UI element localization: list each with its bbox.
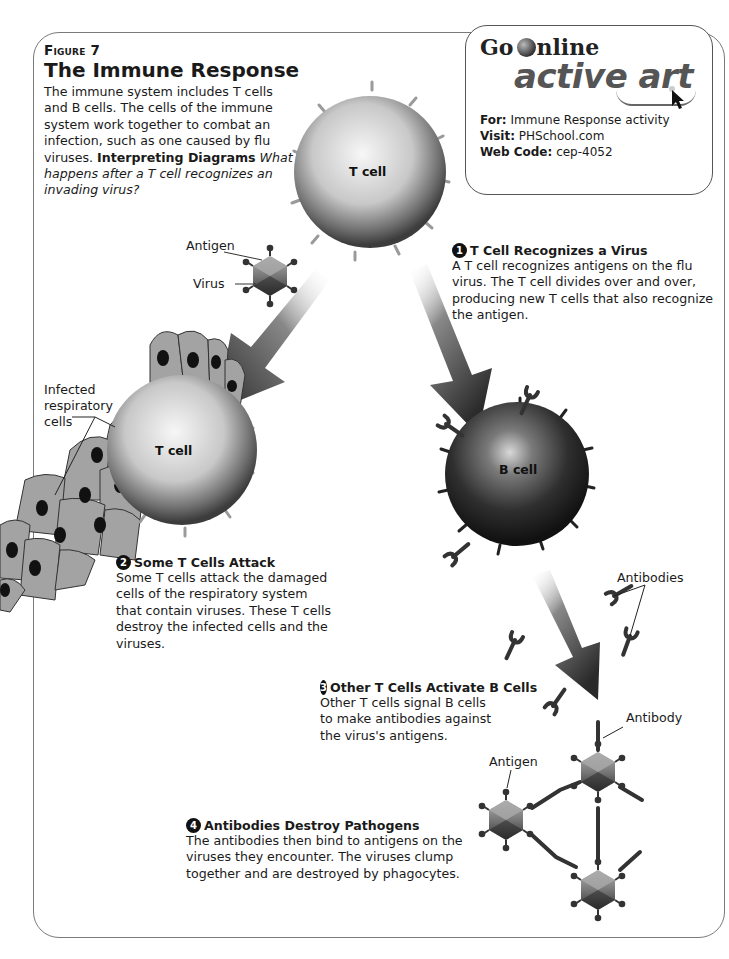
step-3-number: 3 — [320, 680, 327, 695]
step-1-number: 1 — [452, 243, 467, 258]
tcell-attack-label: T cell — [155, 443, 192, 458]
immune-response-diagram — [0, 0, 729, 959]
step-4-body: The antibodies then bind to antigens on … — [186, 833, 471, 882]
step-1-title: T Cell Recognizes a Virus — [470, 243, 648, 258]
step-2-body: Some T cells attack the damaged cells of… — [116, 570, 331, 652]
step-4-title: Antibodies Destroy Pathogens — [204, 818, 419, 833]
antibodies-label: Antibodies — [617, 570, 684, 585]
step-1-body: A T cell recognizes antigens on the flu … — [452, 258, 722, 324]
step-2-number: 2 — [116, 555, 131, 570]
step-3-title: Other T Cells Activate B Cells — [330, 680, 537, 695]
infected-cells-label: Infected respiratory cells — [44, 382, 113, 430]
antibody-leader-line — [603, 727, 623, 738]
virus-label: Virus — [193, 276, 225, 291]
step-2: 2Some T Cells Attack Some T cells attack… — [116, 555, 331, 652]
bcell-label: B cell — [499, 462, 537, 477]
arrow-to-antibodies — [532, 570, 600, 700]
step-1: 1T Cell Recognizes a Virus A T cell reco… — [452, 243, 722, 324]
antigen-bottom-label: Antigen — [489, 754, 538, 769]
step-3: 3Other T Cells Activate B Cells Other T … — [320, 680, 500, 744]
antigen-leader-line — [224, 252, 262, 260]
antigen-top-label: Antigen — [186, 238, 235, 253]
virus-clump — [479, 722, 642, 921]
antibody-label: Antibody — [626, 710, 682, 725]
step-3-body: Other T cells signal B cells to make ant… — [320, 695, 500, 744]
step-2-title: Some T Cells Attack — [134, 555, 275, 570]
tcell-top-label: T cell — [349, 164, 386, 179]
virus-top — [243, 245, 298, 308]
step-4-number: 4 — [186, 818, 201, 833]
antigen-bottom-leader-line — [507, 770, 511, 788]
step-4: 4Antibodies Destroy Pathogens The antibo… — [186, 818, 471, 882]
